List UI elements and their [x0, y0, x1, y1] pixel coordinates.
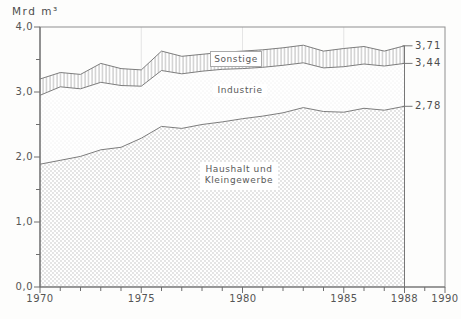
x-tick-label-1970: 1970 — [23, 293, 57, 304]
y-tick-label-4: 4,0 — [7, 21, 33, 32]
stacked-area-plot — [0, 0, 461, 319]
x-tick-label-1980: 1980 — [226, 293, 260, 304]
y-tick-label-2: 2,0 — [7, 151, 33, 162]
end-value-label-sonstige: 3,71 — [415, 40, 441, 51]
y-tick-label-3: 3,0 — [7, 86, 33, 97]
series-label-haushalt-line1: Haushalt und — [200, 164, 278, 175]
series-label-industrie: Industrie — [213, 84, 267, 97]
chart-canvas — [0, 0, 461, 319]
x-tick-label-1988: 1988 — [388, 293, 422, 304]
y-tick-label-1: 1,0 — [7, 216, 33, 227]
x-tick-label-1985: 1985 — [327, 293, 361, 304]
chart-figure: Mrd m³ 0,0 1,0 2,0 3,0 4,0 1970 1975 198… — [0, 0, 461, 319]
series-label-haushalt-line2: Kleingewerbe — [200, 175, 278, 186]
end-value-label-haushalt: 2,78 — [415, 100, 441, 111]
x-tick-label-1990: 1990 — [428, 293, 461, 304]
series-label-haushalt: Haushalt und Kleingewerbe — [200, 162, 278, 190]
y-tick-label-0: 0,0 — [7, 281, 33, 292]
end-value-label-industrie: 3,44 — [415, 57, 441, 68]
x-tick-label-1975: 1975 — [125, 293, 159, 304]
series-label-sonstige: Sonstige — [210, 51, 262, 67]
